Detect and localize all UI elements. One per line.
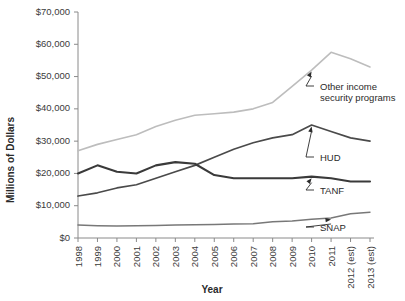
x-tick-label: 1998: [73, 246, 84, 267]
annotation-tanf: TANF: [306, 178, 344, 195]
x-tick-label: 2009: [287, 246, 298, 267]
x-tick-label: 2006: [228, 246, 239, 267]
leader-line: [306, 131, 314, 157]
y-tick-label: $30,000: [36, 135, 70, 146]
line-chart: $0$10,000$20,000$30,000$40,000$50,000$60…: [0, 0, 405, 301]
x-tick-label: 2008: [267, 246, 278, 267]
annotation-label: Other income: [320, 81, 377, 92]
arrow-head: [308, 127, 312, 133]
annotation-label: SNAP: [320, 222, 346, 233]
annotation-other-income-security-programs: Other incomesecurity programs: [306, 72, 396, 103]
x-tick-label: 2003: [170, 246, 181, 267]
leader-line: [306, 76, 314, 86]
y-tick-label: $70,000: [36, 6, 70, 17]
annotation-label: TANF: [320, 185, 344, 196]
annotation-snap: SNAP: [306, 218, 346, 233]
annotation-label: HUD: [320, 152, 341, 163]
annotation-hud: HUD: [306, 127, 341, 163]
y-tick-label: $40,000: [36, 102, 70, 113]
x-tick-label: 2011: [326, 246, 337, 266]
y-axis-title: Millions of Dollars: [5, 117, 16, 204]
x-tick-label: 2012 (est): [345, 246, 356, 289]
x-tick-label: 1999: [92, 246, 103, 267]
y-tick-label: $0: [59, 232, 70, 243]
x-tick-label: 2000: [111, 246, 122, 267]
annotation-label-line2: security programs: [320, 92, 396, 103]
x-tick-label: 2007: [248, 246, 259, 267]
y-tick-label: $20,000: [36, 167, 70, 178]
x-tick-label: 2010: [306, 246, 317, 267]
series-line-tanf: [78, 162, 370, 181]
y-tick-label: $50,000: [36, 70, 70, 81]
x-axis-title: Year: [201, 284, 222, 295]
x-tick-label: 2013 (est): [365, 246, 376, 289]
x-tick-label: 2004: [189, 246, 200, 267]
y-tick-label: $60,000: [36, 38, 70, 49]
y-tick-label: $10,000: [36, 199, 70, 210]
x-tick-label: 2001: [131, 246, 142, 267]
x-tick-label: 2002: [150, 246, 161, 267]
x-tick-label: 2005: [209, 246, 220, 267]
chart-container: $0$10,000$20,000$30,000$40,000$50,000$60…: [0, 0, 405, 301]
